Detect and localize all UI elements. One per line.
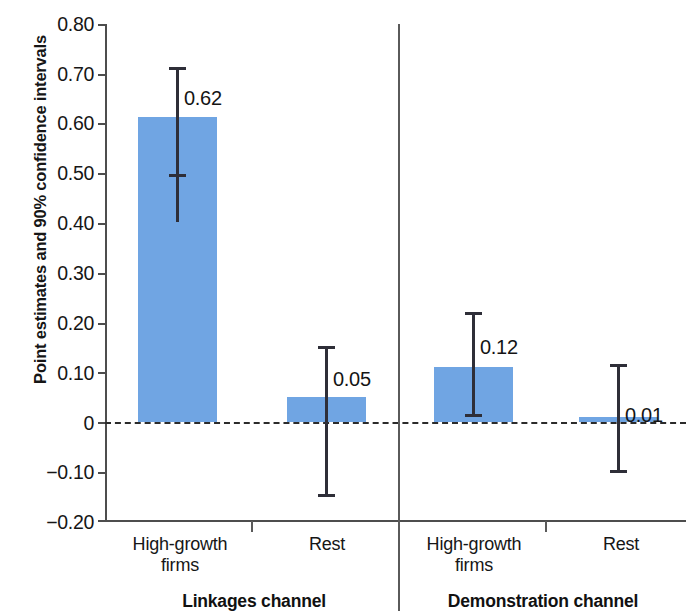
zero-reference-line (105, 422, 686, 424)
y-tick-label-040: 0.40 (8, 214, 94, 234)
y-tick-mark-060 (98, 123, 106, 125)
x-category-label-line1: Rest (257, 534, 397, 555)
errorbar-cap-top-linkages-rest (318, 346, 335, 349)
bar-chart: Point estimates and 90% confidence inter… (0, 0, 686, 611)
value-label-demonstration-rest: 0.01 (625, 405, 663, 425)
x-category-label-demonstration-high-growth: High-growth firms (404, 534, 544, 576)
errorbar-cap-bottom-linkages-high-growth (169, 174, 186, 177)
y-tick-mark-070 (98, 74, 106, 76)
x-category-label-line1: High-growth (110, 534, 250, 555)
y-tick-mark-010 (98, 372, 106, 374)
group-divider (398, 24, 400, 611)
y-tick-label-0: 0 (8, 414, 94, 434)
x-category-label-line2: firms (110, 555, 250, 576)
y-tick-mark-neg020 (98, 520, 106, 522)
y-tick-label-020: 0.20 (8, 314, 94, 334)
group-label-demonstration-channel: Demonstration channel (400, 593, 686, 611)
y-tick-label-060: 0.60 (8, 114, 94, 134)
x-axis-line (105, 520, 686, 522)
value-label-linkages-rest: 0.05 (333, 369, 371, 389)
errorbar-cap-bottom-demonstration-rest (610, 470, 627, 473)
errorbar-cap-bottom-demonstration-high-growth (465, 414, 482, 417)
y-tick-label-neg010: −0.10 (8, 463, 94, 483)
y-tick-label-010: 0.10 (8, 364, 94, 384)
x-category-label-line2: firms (404, 555, 544, 576)
y-tick-mark-030 (98, 273, 106, 275)
group-label-linkages-channel: Linkages channel (110, 593, 398, 611)
y-tick-mark-050 (98, 173, 106, 175)
y-tick-label-030: 0.30 (8, 264, 94, 284)
y-tick-mark-080 (98, 24, 106, 26)
x-category-label-linkages-high-growth: High-growth firms (110, 534, 250, 576)
x-category-label-line1: High-growth (404, 534, 544, 555)
errorbar-line-demonstration-high-growth (472, 313, 475, 417)
y-tick-mark-neg010 (98, 472, 106, 474)
x-category-label-demonstration-rest: Rest (551, 534, 686, 555)
errorbar-cap-top-demonstration-rest (610, 364, 627, 367)
y-tick-label-neg020: −0.20 (8, 513, 94, 533)
y-tick-mark-040 (98, 223, 106, 225)
x-category-label-linkages-rest: Rest (257, 534, 397, 555)
y-tick-label-070: 0.70 (8, 65, 94, 85)
errorbar-cap-bottom-linkages-rest (318, 494, 335, 497)
value-label-linkages-high-growth: 0.62 (184, 88, 222, 108)
errorbar-line-demonstration-rest (617, 365, 620, 472)
y-tick-label-080: 0.80 (8, 15, 94, 35)
errorbar-line-linkages-rest (325, 347, 328, 497)
x-tick-mark-demonstration (545, 521, 547, 532)
value-label-demonstration-high-growth: 0.12 (480, 337, 518, 357)
errorbar-cap-top-demonstration-high-growth (465, 312, 482, 315)
errorbar-cap-top-linkages-high-growth (169, 67, 186, 70)
errorbar-line-linkages-high-growth (176, 68, 179, 222)
plot-area: 0.62 0.05 0.12 0.01 (105, 24, 686, 521)
x-category-label-line1: Rest (551, 534, 686, 555)
y-tick-label-050: 0.50 (8, 164, 94, 184)
y-tick-mark-020 (98, 323, 106, 325)
x-tick-mark-linkages (251, 521, 253, 532)
